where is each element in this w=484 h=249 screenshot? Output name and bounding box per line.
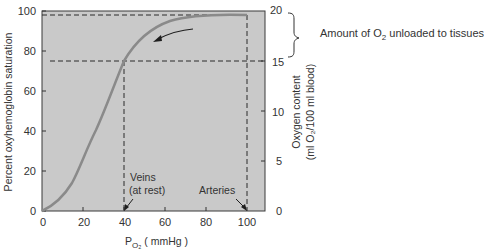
y-tick-100: 100 <box>18 5 36 17</box>
y-tick-0: 0 <box>30 205 36 217</box>
y2-axis-title-line2: (ml O₂/100 ml blood) <box>304 64 316 160</box>
y-tick-60: 60 <box>24 85 36 97</box>
x-axis-title: PO₂ ( mmHg ) <box>125 235 188 249</box>
arteries-label: Arteries <box>199 184 235 196</box>
x-tick-0: 0 <box>40 216 46 228</box>
y-tick-80: 80 <box>24 45 36 57</box>
y2-axis-title-line1: Oxygen content <box>290 75 302 149</box>
y2-tick-20: 20 <box>270 4 282 16</box>
note-prefix: Amount of O <box>320 27 382 39</box>
veins-label: Veins <box>130 171 156 183</box>
y2-tick-15: 15 <box>272 56 284 68</box>
y-tick-20: 20 <box>24 165 36 177</box>
note-suffix: unloaded to tissues <box>386 27 484 39</box>
y2-tick-10: 10 <box>272 106 284 118</box>
x-tick-40: 40 <box>119 216 131 228</box>
x-tick-100: 100 <box>238 216 256 228</box>
y-tick-40: 40 <box>24 125 36 137</box>
x-tick-20: 20 <box>78 216 90 228</box>
y2-tick-0: 0 <box>276 205 282 217</box>
x-tick-60: 60 <box>159 216 171 228</box>
veins-sublabel: (at rest) <box>129 184 165 196</box>
brace-icon <box>288 13 299 57</box>
x-axis-title-units: ( mmHg ) <box>141 235 188 247</box>
x-axis-title-main: P <box>125 235 132 247</box>
x-tick-80: 80 <box>200 216 212 228</box>
x-axis-title-sub: O₂ <box>132 241 141 249</box>
oxygen-unloaded-note: Amount of O2 unloaded to tissues <box>320 27 484 42</box>
y2-tick-5: 5 <box>276 155 282 167</box>
y-axis-title: Percent oxyhemoglobin saturation <box>2 32 14 191</box>
